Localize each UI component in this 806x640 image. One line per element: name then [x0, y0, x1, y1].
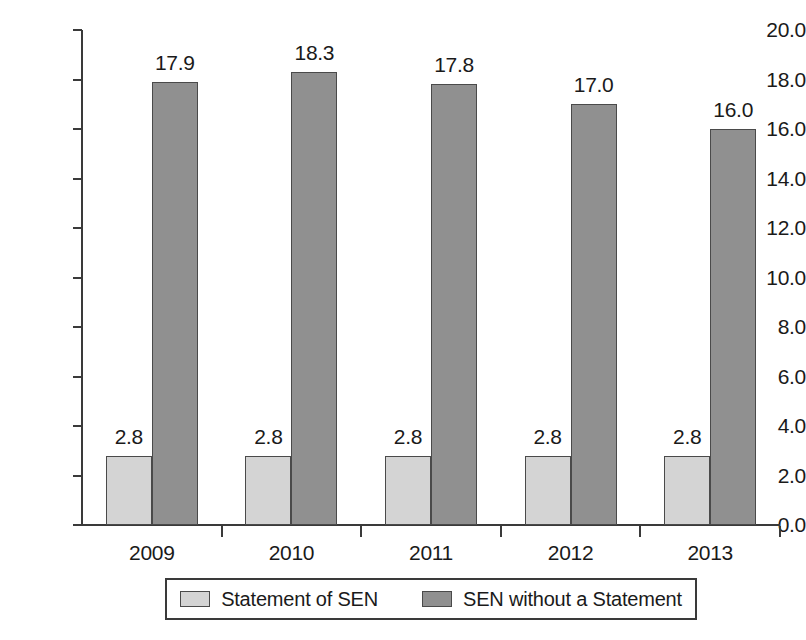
y-axis-tick: [73, 79, 82, 81]
bar-value-label: 17.9: [140, 52, 210, 73]
chart-legend: Statement of SENSEN without a Statement: [165, 578, 697, 620]
bar-chart: 0.02.04.06.08.010.012.014.016.018.020.0 …: [0, 0, 806, 640]
y-axis-tick: [73, 475, 82, 477]
bar[interactable]: [385, 456, 431, 525]
bar-value-label: 17.8: [419, 54, 489, 75]
y-axis-tick: [73, 425, 82, 427]
plot-area: 2.817.92.818.32.817.82.817.02.816.0: [82, 30, 779, 525]
bar[interactable]: [664, 456, 710, 525]
y-axis-tick: [73, 326, 82, 328]
bar[interactable]: [152, 82, 198, 525]
bar-value-label: 18.3: [279, 42, 349, 63]
legend-swatch-icon: [422, 591, 452, 607]
bar-value-label: 17.0: [559, 74, 629, 95]
x-axis-tick: [779, 526, 781, 537]
x-axis-tick-label: 2012: [511, 541, 631, 565]
legend-label: Statement of SEN: [221, 589, 378, 609]
bar-value-label: 16.0: [698, 99, 768, 120]
y-axis-tick: [73, 128, 82, 130]
legend-label: SEN without a Statement: [463, 589, 682, 609]
bar[interactable]: [291, 72, 337, 525]
bar[interactable]: [710, 129, 756, 525]
bar[interactable]: [245, 456, 291, 525]
bar[interactable]: [431, 84, 477, 525]
x-axis-tick: [500, 526, 502, 537]
legend-entry[interactable]: Statement of SEN: [180, 589, 378, 609]
bar[interactable]: [106, 456, 152, 525]
y-axis-tick: [73, 277, 82, 279]
x-axis-tick-label: 2013: [650, 541, 770, 565]
x-axis-tick: [639, 526, 641, 537]
y-axis-tick: [73, 178, 82, 180]
x-axis-tick-label: 2011: [371, 541, 491, 565]
x-axis-tick-label: 2010: [231, 541, 351, 565]
bar[interactable]: [571, 104, 617, 525]
legend-entry[interactable]: SEN without a Statement: [422, 589, 682, 609]
x-axis-tick: [221, 526, 223, 537]
x-axis-tick: [360, 526, 362, 537]
y-axis-tick: [73, 376, 82, 378]
legend-swatch-icon: [180, 591, 210, 607]
y-axis-tick: [73, 29, 82, 31]
y-axis-tick: [73, 227, 82, 229]
x-axis-tick-label: 2009: [92, 541, 212, 565]
bar[interactable]: [525, 456, 571, 525]
